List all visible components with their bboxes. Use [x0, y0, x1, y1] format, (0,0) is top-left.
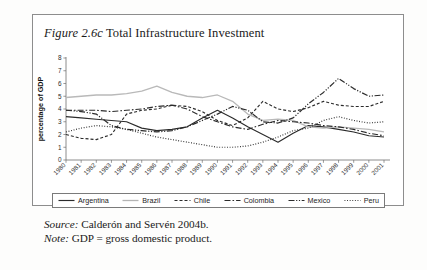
legend-swatch-icon	[58, 197, 75, 204]
x-tick-label: 2001	[370, 161, 385, 176]
x-tick-label: 1980	[52, 161, 67, 176]
legend-swatch-icon	[122, 197, 139, 204]
chart-legend: ArgentinaBrazilChileColombiaMexicoPeru	[52, 193, 385, 208]
note-label: Note:	[44, 232, 69, 244]
x-tick-label: 1984	[112, 161, 127, 176]
x-tick-label: 1996	[294, 161, 309, 176]
legend-label: Brazil	[142, 196, 160, 205]
note-text: GDP = gross domestic product.	[69, 232, 212, 244]
x-tick-label: 1983	[97, 161, 112, 176]
series-line-brazil	[66, 86, 384, 132]
source-note-block: Source: Calderón and Servén 2004b. Note:…	[44, 218, 212, 245]
legend-swatch-icon	[288, 197, 305, 204]
y-tick-label: 8	[58, 54, 62, 61]
x-tick-label: 1998	[324, 161, 339, 176]
y-axis-label: percentage of GDP	[36, 76, 45, 141]
x-tick-label: 1987	[158, 161, 173, 176]
x-tick-label: 2000	[355, 161, 370, 176]
x-tick-label: 1995	[279, 161, 294, 176]
figure-page: Figure 2.6c Total Infrastructure Investm…	[0, 0, 427, 270]
legend-item-mexico[interactable]: Mexico	[288, 196, 331, 205]
x-tick-label: 1991	[218, 161, 233, 176]
source-label: Source:	[44, 218, 78, 230]
legend-swatch-icon	[174, 197, 191, 204]
x-tick-label: 1990	[203, 161, 218, 176]
x-tick-label: 1981	[67, 161, 82, 176]
y-tick-label: 4	[58, 105, 62, 112]
y-tick-label: 2	[58, 131, 62, 138]
chart-svg: 012345678 198019811982198319841985198619…	[32, 48, 404, 206]
legend-item-argentina[interactable]: Argentina	[58, 196, 109, 205]
legend-label: Argentina	[78, 196, 109, 205]
y-tick-label: 3	[58, 118, 62, 125]
x-tick-label: 1982	[82, 161, 97, 176]
legend-item-colombia[interactable]: Colombia	[224, 196, 274, 205]
x-tick-label: 1989	[188, 161, 203, 176]
chart-series-group	[66, 78, 384, 147]
x-tick-label: 1994	[264, 161, 279, 176]
x-tick-label: 1992	[234, 161, 249, 176]
figure-title-text: Total Infrastructure Investment	[106, 26, 264, 40]
x-axis: 1980198119821983198419851986198719881989…	[52, 160, 390, 176]
legend-swatch-icon	[224, 197, 241, 204]
figure-number: Figure 2.6c	[44, 26, 103, 40]
x-tick-label: 1993	[249, 161, 264, 176]
legend-label: Peru	[364, 196, 379, 205]
legend-label: Chile	[194, 196, 210, 205]
y-tick-label: 6	[58, 80, 62, 87]
x-tick-label: 1985	[128, 161, 143, 176]
legend-item-peru[interactable]: Peru	[344, 196, 379, 205]
legend-item-brazil[interactable]: Brazil	[122, 196, 160, 205]
series-line-argentina	[66, 110, 384, 142]
y-tick-label: 7	[58, 67, 62, 74]
y-axis-title: percentage of GDP	[36, 76, 45, 141]
legend-label: Colombia	[244, 196, 274, 205]
source-text: Calderón and Servén 2004b.	[78, 218, 208, 230]
y-tick-label: 1	[58, 144, 62, 151]
legend-label: Mexico	[308, 196, 331, 205]
source-line: Source: Calderón and Servén 2004b.	[44, 218, 212, 232]
x-tick-label: 1999	[340, 161, 355, 176]
line-chart: 012345678 198019811982198319841985198619…	[32, 48, 404, 206]
note-line: Note: GDP = gross domestic product.	[44, 232, 212, 246]
x-tick-label: 1988	[173, 161, 188, 176]
legend-item-chile[interactable]: Chile	[174, 196, 210, 205]
page-title: Figure 2.6c Total Infrastructure Investm…	[44, 26, 264, 41]
y-tick-label: 5	[58, 93, 62, 100]
legend-swatch-icon	[344, 197, 361, 204]
x-tick-label: 1997	[309, 161, 324, 176]
y-axis: 012345678	[58, 54, 66, 163]
x-tick-label: 1986	[143, 161, 158, 176]
